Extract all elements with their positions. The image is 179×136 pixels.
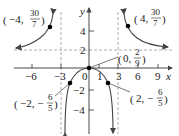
- point-pos4: [126, 24, 131, 29]
- tick-label-6: 6: [135, 70, 141, 82]
- point-neg4: [48, 25, 53, 30]
- tick-label-yneg2: −2: [73, 84, 85, 96]
- svg-text:6: 6: [158, 87, 163, 97]
- svg-text:4,: 4,: [140, 12, 149, 24]
- svg-text:2: 2: [135, 47, 140, 57]
- svg-text:30: 30: [30, 8, 40, 18]
- svg-text:): ): [162, 13, 166, 26]
- tick-label-9: 9: [155, 70, 161, 82]
- point-pos2: [106, 81, 111, 86]
- svg-text:7: 7: [153, 18, 158, 28]
- point-origin: [87, 66, 92, 71]
- svg-text:): ): [41, 14, 45, 27]
- point-label-neg4: ( −4, 30 7 ): [3, 8, 45, 29]
- svg-text:5: 5: [158, 98, 163, 108]
- point-label-pos2: ( 2, − 6 5 ): [130, 87, 168, 108]
- svg-text:(: (: [130, 93, 134, 106]
- svg-text:5: 5: [48, 103, 53, 113]
- graph-canvas: −6 −3 0 1 3 6 9 x y 4 2 −2 −4 ( −4, 30: [0, 0, 179, 136]
- svg-text:): ): [164, 93, 168, 106]
- tick-label-neg3: −3: [54, 70, 66, 82]
- leader-p3: [89, 57, 118, 68]
- tick-label-neg6: −6: [25, 70, 37, 82]
- svg-text:0,: 0,: [123, 52, 132, 64]
- svg-text:(: (: [3, 14, 7, 27]
- svg-text:7: 7: [32, 19, 37, 29]
- svg-text:): ): [54, 98, 58, 111]
- leader-p5: [108, 83, 130, 92]
- point-label-pos4: ( 4, 30 7 ): [134, 7, 166, 28]
- y-ticks: [89, 31, 94, 110]
- point-neg2: [68, 81, 73, 86]
- svg-text:(: (: [118, 53, 122, 66]
- svg-text:9: 9: [135, 58, 140, 68]
- rational-function-graph: −6 −3 0 1 3 6 9 x y 4 2 −2 −4 ( −4, 30: [0, 0, 179, 136]
- x-axis-label: x: [165, 70, 171, 82]
- tick-label-y2: 2: [80, 44, 86, 56]
- tick-label-0: 0: [82, 70, 88, 82]
- svg-text:): ): [142, 53, 146, 66]
- svg-text:(: (: [134, 13, 138, 26]
- tick-label-3: 3: [116, 70, 122, 82]
- svg-text:−4,: −4,: [9, 13, 24, 25]
- tick-label-yneg4: −4: [73, 104, 85, 116]
- svg-text:6: 6: [48, 92, 53, 102]
- svg-text:2, −: 2, −: [136, 92, 153, 104]
- y-axis-label: y: [79, 5, 85, 17]
- svg-text:30: 30: [151, 7, 161, 17]
- tick-label-y4: 4: [80, 25, 86, 37]
- point-label-neg2: ( −2, − 6 5 ): [14, 92, 58, 113]
- svg-text:(: (: [14, 98, 18, 111]
- svg-text:−2, −: −2, −: [20, 97, 43, 109]
